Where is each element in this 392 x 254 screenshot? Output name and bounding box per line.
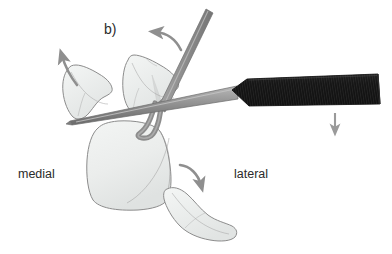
arrow-central-rotation [156, 32, 181, 50]
illustration-canvas [0, 0, 392, 254]
lateral-label: lateral [234, 168, 268, 181]
bone-lateral-fragment [164, 188, 237, 241]
instrument-osteotome-handle[interactable] [232, 74, 380, 106]
medial-label: medial [18, 168, 55, 181]
panel-letter-label: b) [104, 22, 116, 36]
figure-container: b) medial lateral [0, 0, 392, 254]
arrow-lateral-rotation [180, 165, 201, 185]
bone-main-body [87, 121, 171, 210]
